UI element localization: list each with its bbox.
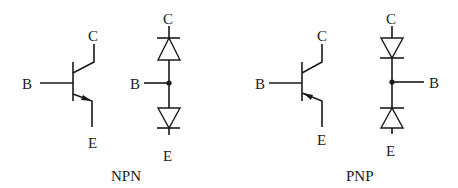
- pnp-collector-lead: [302, 44, 322, 73]
- pnp-emitter-label: E: [317, 132, 326, 148]
- npn-base-label: B: [22, 76, 32, 92]
- npn-diode-base-label: B: [130, 76, 140, 92]
- pnp-diode-base-label: B: [429, 75, 439, 91]
- npn-emitter-label: E: [88, 135, 97, 151]
- pnp-lower-diode-triangle-icon: [381, 108, 403, 128]
- npn-transistor-symbol: B C E: [22, 28, 98, 151]
- pnp-diode-model: C B E: [380, 11, 439, 159]
- pnp-transistor-symbol: B C E: [255, 28, 327, 148]
- pnp-diode-collector-label: C: [386, 11, 396, 27]
- npn-diode-collector-label: C: [163, 11, 173, 27]
- transistor-diode-diagram: B C E C B E NPN B C E C B E: [0, 0, 458, 188]
- npn-collector-lead: [73, 44, 94, 73]
- npn-caption: NPN: [111, 168, 141, 184]
- pnp-base-label: B: [255, 76, 265, 92]
- npn-upper-diode-triangle-icon: [158, 38, 180, 60]
- pnp-collector-label: C: [317, 28, 327, 44]
- pnp-emitter-arrow-icon: [303, 93, 313, 100]
- npn-emitter-arrow-icon: [81, 95, 92, 101]
- npn-lower-diode-triangle-icon: [158, 108, 180, 128]
- pnp-diode-emitter-label: E: [386, 143, 395, 159]
- npn-collector-label: C: [88, 28, 98, 44]
- npn-diode-emitter-label: E: [163, 148, 172, 164]
- pnp-caption: PNP: [346, 168, 374, 184]
- pnp-emitter-lead: [302, 93, 322, 127]
- pnp-upper-diode-triangle-icon: [381, 38, 403, 58]
- npn-diode-model: C B E: [130, 11, 180, 164]
